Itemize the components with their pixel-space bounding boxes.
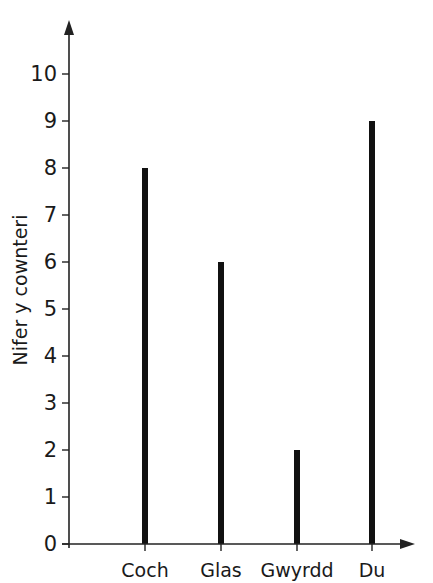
y-axis-arrow-icon (64, 20, 74, 35)
y-tick-label: 8 (44, 156, 57, 180)
y-tick-label: 0 (44, 532, 57, 556)
y-axis-ticks: 012345678910 (30, 62, 69, 556)
x-category-label: Gwyrdd (260, 559, 333, 581)
x-axis-arrow-icon (400, 539, 415, 549)
bar-gwyrdd (294, 450, 300, 544)
y-tick-label: 3 (44, 391, 57, 415)
x-category-label: Coch (121, 559, 168, 581)
x-category-label: Du (359, 559, 386, 581)
y-tick-label: 2 (44, 438, 57, 462)
y-tick-label: 1 (44, 485, 57, 509)
bar-coch (142, 168, 148, 544)
x-category-label: Glas (200, 559, 242, 581)
y-axis-label: Nifer y cownteri (9, 215, 31, 366)
y-tick-label: 5 (44, 297, 57, 321)
y-tick-label: 7 (44, 203, 57, 227)
y-tick-label: 10 (30, 62, 57, 86)
bars (142, 121, 375, 544)
y-tick-label: 4 (44, 344, 57, 368)
bar-glas (218, 262, 224, 544)
y-tick-label: 9 (44, 109, 57, 133)
bar-du (369, 121, 375, 544)
y-tick-label: 6 (44, 250, 57, 274)
bar-line-chart: 012345678910 CochGlasGwyrddDu Nifer y co… (0, 0, 433, 583)
x-axis-labels: CochGlasGwyrddDu (121, 544, 385, 581)
